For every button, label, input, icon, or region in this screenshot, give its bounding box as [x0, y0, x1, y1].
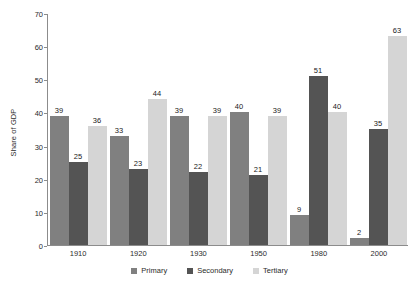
legend-label: Tertiary: [263, 266, 288, 275]
bar-value-label: 2: [357, 228, 361, 237]
x-axis-tick-label: 1950: [229, 249, 289, 258]
bar-tertiary-2000[interactable]: 63: [388, 36, 407, 245]
bar-value-label: 39: [55, 106, 63, 115]
bar-slot: 39: [170, 14, 189, 245]
bar-value-label: 21: [254, 165, 262, 174]
y-axis-tick-mark: [44, 213, 47, 214]
y-axis-tick-mark: [44, 113, 47, 114]
y-axis-tick-label: 40: [3, 109, 43, 118]
bar-secondary-1950[interactable]: 21: [249, 175, 268, 245]
bar-value-label: 40: [333, 102, 341, 111]
y-axis-tick-label: 30: [3, 142, 43, 151]
bar-tertiary-1910[interactable]: 36: [88, 126, 107, 245]
bar-slot: 39: [208, 14, 227, 245]
bar-tertiary-1950[interactable]: 39: [268, 116, 287, 245]
bar-primary-1980[interactable]: 9: [290, 215, 309, 245]
bar-group: 332344: [108, 14, 168, 245]
x-axis-tick-labels: 191019201930195019802000: [48, 249, 409, 258]
y-axis-tick-mark: [44, 147, 47, 148]
bar-primary-1910[interactable]: 39: [50, 116, 69, 245]
y-axis-tick-mark: [44, 246, 47, 247]
bar-value-label: 39: [273, 106, 281, 115]
x-axis-tick-label: 1930: [168, 249, 228, 258]
bar-primary-1930[interactable]: 39: [170, 116, 189, 245]
bar-primary-2000[interactable]: 2: [350, 238, 369, 245]
bar-tertiary-1980[interactable]: 40: [328, 112, 347, 245]
bar-value-label: 9: [297, 205, 301, 214]
legend-label: Primary: [141, 266, 167, 275]
legend-swatch-icon: [187, 268, 193, 274]
bar-slot: 9: [290, 14, 309, 245]
plot-area: 010203040506070 392536332344392239402139…: [47, 14, 408, 246]
bar-chart: Share of GDP 010203040506070 39253633234…: [0, 0, 419, 290]
bar-slot: 35: [369, 14, 388, 245]
y-axis-tick-mark: [44, 80, 47, 81]
legend-swatch-icon: [253, 268, 259, 274]
bar-slot: 40: [328, 14, 347, 245]
bar-slot: 2: [350, 14, 369, 245]
y-axis-tick-label: 10: [3, 208, 43, 217]
bar-value-label: 22: [194, 162, 202, 171]
y-axis-tick-label: 20: [3, 175, 43, 184]
legend-item-tertiary[interactable]: Tertiary: [253, 266, 288, 275]
bar-slot: 36: [88, 14, 107, 245]
y-axis-tick-mark: [44, 180, 47, 181]
bar-tertiary-1920[interactable]: 44: [148, 99, 167, 245]
bar-value-label: 39: [175, 106, 183, 115]
bar-secondary-1980[interactable]: 51: [309, 76, 328, 245]
bar-slot: 25: [69, 14, 88, 245]
y-axis-tick-label: 50: [3, 76, 43, 85]
bar-value-label: 44: [153, 89, 161, 98]
bar-slot: 44: [148, 14, 167, 245]
bar-group: 23563: [348, 14, 408, 245]
bar-slot: 39: [268, 14, 287, 245]
bar-group: 402139: [228, 14, 288, 245]
bar-value-label: 40: [235, 102, 243, 111]
bar-slot: 33: [110, 14, 129, 245]
y-axis-tick-mark: [44, 14, 47, 15]
bar-value-label: 25: [74, 152, 82, 161]
bar-tertiary-1930[interactable]: 39: [208, 116, 227, 245]
bar-value-label: 39: [213, 106, 221, 115]
bar-slot: 23: [129, 14, 148, 245]
chart-legend: PrimarySecondaryTertiary: [0, 266, 419, 275]
x-axis-tick-label: 1980: [289, 249, 349, 258]
bar-slot: 63: [388, 14, 407, 245]
bar-value-label: 51: [314, 66, 322, 75]
bar-value-label: 23: [134, 159, 142, 168]
bar-value-label: 36: [93, 116, 101, 125]
legend-item-secondary[interactable]: Secondary: [187, 266, 233, 275]
bar-slot: 22: [189, 14, 208, 245]
bar-secondary-1930[interactable]: 22: [189, 172, 208, 245]
bar-secondary-1920[interactable]: 23: [129, 169, 148, 245]
legend-label: Secondary: [197, 266, 233, 275]
x-axis-tick-label: 2000: [349, 249, 409, 258]
y-axis-tick-label: 0: [3, 242, 43, 251]
bar-primary-1920[interactable]: 33: [110, 136, 129, 245]
bar-slot: 21: [249, 14, 268, 245]
bar-primary-1950[interactable]: 40: [230, 112, 249, 245]
bar-value-label: 35: [374, 119, 382, 128]
y-axis-tick-mark: [44, 47, 47, 48]
y-axis-tick-label: 70: [3, 10, 43, 19]
bar-value-label: 63: [393, 26, 401, 35]
x-axis-tick-label: 1910: [48, 249, 108, 258]
x-axis-line: [47, 245, 408, 246]
legend-swatch-icon: [131, 268, 137, 274]
y-axis-title: Share of GDP: [9, 88, 18, 178]
legend-item-primary[interactable]: Primary: [131, 266, 167, 275]
y-axis-tick-label: 60: [3, 43, 43, 52]
bar-slot: 51: [309, 14, 328, 245]
bar-group: 392536: [48, 14, 108, 245]
bar-group: 95140: [288, 14, 348, 245]
bar-slot: 39: [50, 14, 69, 245]
bar-value-label: 33: [115, 126, 123, 135]
bar-groups: 3925363323443922394021399514023563: [48, 14, 408, 245]
bar-group: 392239: [168, 14, 228, 245]
bar-secondary-2000[interactable]: 35: [369, 129, 388, 245]
bar-secondary-1910[interactable]: 25: [69, 162, 88, 245]
bar-slot: 40: [230, 14, 249, 245]
x-axis-tick-label: 1920: [108, 249, 168, 258]
